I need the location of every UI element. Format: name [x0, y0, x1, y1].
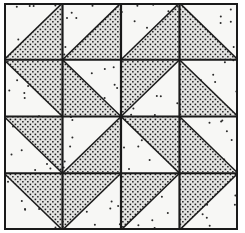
sparse-dot — [33, 5, 35, 7]
sparse-dot — [113, 66, 115, 68]
sparse-dot — [109, 208, 111, 210]
sparse-dot — [137, 145, 139, 147]
sparse-dot — [137, 224, 139, 226]
quilt-patch-r2-c4 — [180, 59, 239, 116]
sparse-dot — [94, 224, 96, 226]
sparse-dot — [86, 211, 88, 213]
sparse-dot — [226, 130, 228, 132]
quilt-patch-r1-c1 — [4, 3, 63, 60]
sparse-dot — [21, 149, 23, 151]
quilt-patch-r1-c2 — [63, 3, 122, 60]
sparse-dot — [212, 74, 214, 76]
quilt-patch-r3-c2 — [63, 116, 122, 173]
sparse-dot — [24, 97, 26, 99]
quilt-block-diagram — [4, 3, 238, 230]
sparse-dot — [69, 146, 71, 148]
quilt-patch-r2-c1 — [4, 60, 63, 117]
sparse-dot — [132, 108, 134, 110]
sparse-dot — [149, 159, 151, 161]
sparse-dot — [141, 139, 143, 141]
sparse-dot — [220, 15, 222, 17]
sparse-dot — [46, 163, 48, 165]
sparse-dot — [11, 154, 13, 156]
quilt-patch-r3-c1 — [4, 117, 63, 174]
sparse-dot — [66, 17, 68, 19]
quilt-patch-r4-c3 — [121, 173, 180, 230]
sparse-dot — [209, 225, 211, 227]
quilt-patch-r2-c2 — [63, 60, 122, 117]
sparse-dot — [17, 38, 19, 40]
sparse-dot — [91, 72, 93, 74]
sparse-dot — [71, 136, 73, 138]
sparse-dot — [71, 119, 73, 121]
sparse-dot — [116, 87, 118, 89]
sparse-dot — [104, 68, 106, 70]
sparse-dot — [231, 139, 233, 141]
sparse-dot — [16, 79, 18, 81]
sparse-dot — [167, 212, 169, 214]
sparse-dot — [146, 27, 148, 29]
sparse-dot — [130, 114, 132, 116]
sparse-dot — [123, 147, 125, 149]
quilt-patch-r4-c1 — [4, 173, 63, 230]
sparse-dot — [34, 169, 36, 171]
sparse-dot — [220, 22, 222, 24]
sparse-dot — [23, 92, 25, 94]
quilt-patch-r1-c4 — [180, 3, 239, 60]
sparse-dot — [206, 217, 208, 219]
sparse-dot — [160, 95, 162, 97]
sparse-dot — [230, 21, 232, 23]
sparse-dot — [156, 95, 158, 97]
sparse-dot — [64, 46, 66, 48]
sparse-dot — [49, 168, 51, 170]
quilt-patch-r4-c2 — [63, 173, 122, 230]
quilt-grid — [4, 3, 238, 230]
sparse-dot — [224, 61, 226, 63]
quilt-patch-r4-c4 — [180, 173, 239, 230]
sparse-dot — [209, 122, 211, 124]
sparse-dot — [233, 46, 235, 48]
sparse-dot — [64, 161, 66, 163]
sparse-dot — [234, 204, 236, 206]
quilt-patch-r3-c4 — [180, 117, 239, 174]
sparse-dot — [8, 89, 10, 91]
sparse-dot — [167, 10, 169, 12]
quilt-patch-r1-c3 — [121, 3, 180, 60]
sparse-dot — [214, 81, 216, 83]
sparse-dot — [29, 5, 31, 7]
sparse-dot — [24, 208, 26, 210]
sparse-dot — [161, 196, 163, 198]
sparse-dot — [75, 17, 77, 19]
sparse-dot — [134, 20, 136, 22]
sparse-dot — [117, 205, 119, 207]
sparse-dot — [21, 200, 23, 202]
sparse-dot — [202, 213, 204, 215]
sparse-dot — [7, 181, 9, 183]
sparse-dot — [27, 85, 29, 87]
sparse-dot — [128, 168, 130, 170]
sparse-dot — [221, 120, 223, 122]
sparse-dot — [151, 219, 153, 221]
sparse-dot — [230, 9, 232, 11]
sparse-dot — [114, 84, 116, 86]
quilt-patch-r2-c3 — [121, 60, 180, 117]
sparse-dot — [176, 102, 178, 104]
quilt-patch-r3-c3 — [120, 117, 179, 174]
sparse-dot — [71, 12, 73, 14]
sparse-dot — [16, 6, 18, 8]
sparse-dot — [111, 201, 113, 203]
